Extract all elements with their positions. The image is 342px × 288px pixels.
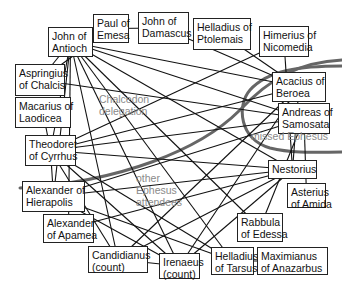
- node-john-antioch: John ofAntioch: [48, 27, 93, 57]
- node-irenaeus: Irenaeus(count): [159, 253, 200, 279]
- node-label: Beroea: [276, 87, 322, 99]
- node-maximianus-anazarbus: Maximianusof Anazarbus: [257, 247, 328, 275]
- node-theodoret-cyrrhus: Theodoretof Cyrrhus: [25, 135, 76, 166]
- node-label: Alexander of: [26, 184, 81, 196]
- node-nestorius: Nestorius: [268, 160, 317, 179]
- node-label: Ptolemais: [197, 33, 247, 45]
- edge-aspringius_chalcis-andreas_samosata: [40, 80, 304, 119]
- node-label: Paul of: [97, 17, 125, 29]
- node-himerius-nicomedia: Himerius ofNicomedia: [259, 26, 309, 57]
- node-label: Candidianus: [92, 249, 144, 261]
- node-macarius-laodicea: Macarius ofLaodicea: [15, 97, 71, 128]
- node-label: Helladius: [215, 250, 250, 262]
- node-label: of Amida: [291, 198, 322, 210]
- node-label: John of: [142, 15, 185, 27]
- node-john-damascus: John ofDamascus: [138, 12, 189, 44]
- node-label: Andreas of: [282, 106, 326, 118]
- node-label: Macarius of: [19, 100, 67, 112]
- node-label: John of: [52, 30, 89, 42]
- group-label-line: other: [136, 172, 182, 184]
- node-label: of Apamea: [47, 229, 90, 241]
- node-acacius-beroea: Acacius ofBeroea: [272, 72, 326, 102]
- group-label-chalcedon: Chalcedondelegation: [99, 93, 149, 117]
- node-label: Laodicea: [19, 112, 67, 124]
- node-label: of Tarsus: [215, 262, 250, 274]
- node-label: of Cyrrhus: [29, 150, 72, 162]
- group-label-line: attendees: [136, 196, 182, 208]
- group-label-other-ephesus: otherEphesusattendees: [136, 172, 182, 208]
- node-label: Helladius of: [197, 21, 247, 33]
- node-label: Samosata: [282, 118, 326, 130]
- node-label: Nestorius: [272, 163, 313, 175]
- node-helladius-tarsus: Helladiusof Tarsus: [211, 247, 254, 275]
- node-label: Himerius of: [263, 29, 305, 41]
- group-label-line: missed Ephesus: [251, 130, 328, 142]
- node-helladius-ptolemais: Helladius ofPtolemais: [193, 18, 251, 50]
- group-label-line: Chalcedon: [99, 93, 149, 105]
- node-label: Aspringius: [19, 67, 61, 79]
- node-alexander-hierapolis: Alexander ofHierapolis: [22, 181, 85, 212]
- node-label: Maximianus: [261, 250, 324, 262]
- node-label: Alexander: [47, 217, 90, 229]
- node-label: Hierapolis: [26, 196, 81, 208]
- node-rabbula-edessa: Rabbulaof Edessa: [237, 213, 283, 242]
- node-label: Rabbula: [241, 216, 279, 228]
- node-label: Acacius of: [276, 75, 322, 87]
- node-label: Irenaeus: [163, 256, 196, 268]
- node-label: of Edessa: [241, 228, 279, 240]
- node-candidianus: Candidianus(count): [88, 246, 148, 273]
- group-label-line: delegation: [99, 105, 149, 117]
- node-aspringius-chalcis: Aspringiusof Chalcis: [15, 64, 65, 96]
- group-label-missed-ephesus: missed Ephesus: [251, 130, 328, 142]
- node-label: (count): [163, 268, 196, 280]
- node-asterius-amida: Asteriusof Amida: [287, 183, 326, 208]
- node-label: Emesa: [97, 29, 125, 41]
- node-label: Nicomedia: [263, 41, 305, 53]
- node-paul-emesa: Paul ofEmesa: [93, 14, 129, 43]
- node-label: Asterius: [291, 186, 322, 198]
- node-label: of Chalcis: [19, 79, 61, 91]
- node-label: Antioch: [52, 42, 89, 54]
- node-label: of Anazarbus: [261, 262, 324, 274]
- node-alexander-apamea: Alexanderof Apamea: [43, 214, 94, 243]
- group-label-line: Ephesus: [136, 184, 182, 196]
- node-label: Theodoret: [29, 138, 72, 150]
- node-label: Damascus: [142, 27, 185, 39]
- node-label: (count): [92, 261, 144, 273]
